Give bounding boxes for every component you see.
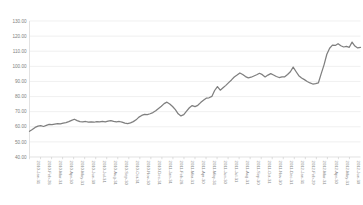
x-axis-tick-label: 2010-Jul-31: [102, 161, 107, 184]
x-axis-tick-labels: 2010-Jan-312010-Feb-282010-Mar-312010-Ap…: [36, 161, 361, 186]
x-axis-tick-label: 2012-Mar-31: [322, 161, 327, 186]
x-axis-tick-label: 2010-Jan-31: [36, 161, 41, 185]
y-axis-tick-label: 40.00: [15, 155, 27, 160]
y-axis-tick-label: 100.00: [12, 64, 26, 69]
y-axis-tick-label: 120.00: [12, 34, 26, 39]
x-axis-tick-label: 2010-Dec-31: [157, 161, 162, 186]
x-axis-tick-label: 2011-Sep-30: [256, 161, 261, 186]
x-axis-tick-label: 2010-Sep-30: [124, 161, 129, 186]
y-axis-tick-label: 70.00: [15, 109, 27, 114]
line-chart: 130.00120.00110.00100.0090.0080.0070.006…: [0, 0, 363, 205]
x-axis-tick-label: 2011-Jan-31: [168, 161, 173, 185]
y-axis-tick-label: 130.00: [12, 19, 26, 24]
x-axis-tick-label: 2011-Feb-28: [179, 161, 184, 185]
x-axis-tick-label: 2011-Mar-31: [190, 161, 195, 185]
x-axis-tick-label: 2011-Jul-31: [234, 161, 239, 183]
x-axis-tick-label: 2011-Nov-30: [278, 161, 283, 186]
x-axis-tick-label: 2012-May-31: [345, 161, 350, 186]
x-axis-tick-label: 2010-Apr-30: [69, 161, 74, 185]
y-axis-tick-label: 60.00: [15, 124, 27, 129]
x-axis-tick-label: 2011-May-31: [212, 161, 217, 186]
chart-svg: 130.00120.00110.00100.0090.0080.0070.006…: [0, 0, 363, 205]
y-axis-tick-label: 90.00: [15, 79, 27, 84]
x-axis-tick-label: 2010-Nov-30: [146, 161, 151, 186]
y-axis-tick-label: 80.00: [15, 94, 27, 99]
x-axis-tick-label: 2011-Aug-31: [245, 161, 250, 186]
gridline-group: [30, 21, 361, 157]
plot-area: 130.00120.00110.00100.0090.0080.0070.006…: [0, 0, 363, 205]
x-axis-tick-label: 2011-Apr-30: [201, 161, 206, 185]
data-series-line: [30, 42, 361, 131]
y-axis-tick-label: 50.00: [15, 140, 27, 145]
x-axis-tick-label: 2011-Dec-31: [289, 161, 294, 186]
x-axis-tick-label: 2010-Mar-31: [58, 161, 63, 186]
x-axis-tick-label: 2011-Oct-31: [267, 161, 272, 185]
y-axis-tick-label: 110.00: [13, 49, 27, 54]
x-axis-tick-label: 2010-May-31: [80, 161, 85, 186]
x-axis-tick-label: 2011-Jun-30: [223, 161, 228, 185]
y-axis-tick-labels: 130.00120.00110.00100.0090.0080.0070.006…: [12, 19, 27, 160]
x-axis-tick-label: 2012-Apr-30: [334, 161, 339, 185]
x-axis-tick-label: 2010-Feb-28: [47, 161, 52, 186]
x-axis-tick-label: 2012-Jun-30: [356, 161, 361, 185]
x-axis-tick-label: 2010-Oct-31: [135, 161, 140, 185]
x-axis-tick-label: 2010-Jun-30: [91, 161, 96, 185]
x-axis-tick-label: 2012-Feb-29: [311, 161, 316, 186]
x-axis-tick-label: 2012-Jan-31: [300, 161, 305, 185]
x-axis-tick-label: 2010-Aug-31: [113, 161, 118, 186]
